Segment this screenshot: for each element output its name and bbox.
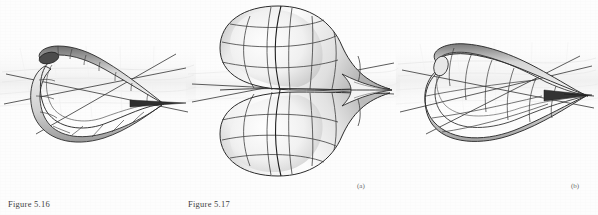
- sublabel-a: (a): [357, 182, 365, 190]
- caption-figure-5-16: Figure 5.16: [8, 199, 50, 209]
- sublabel-b: (b): [571, 182, 579, 190]
- figure-5-17a-illustration: [186, 0, 400, 180]
- figure-5-17b-illustration: [396, 8, 598, 173]
- caption-figure-5-17: Figure 5.17: [188, 199, 230, 209]
- figure-5-16-illustration: [0, 8, 196, 173]
- figure-page: Figure 5.16 Figure 5.17 (a) (b): [0, 0, 598, 215]
- ground-plane: [0, 44, 196, 118]
